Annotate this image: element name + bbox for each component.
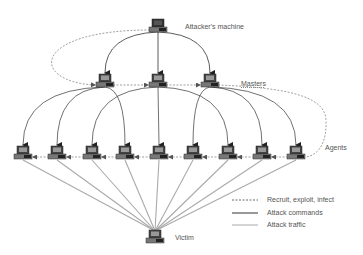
drive-slot — [194, 155, 201, 158]
screen — [154, 76, 162, 81]
attack-command-line — [105, 32, 158, 73]
drive-slot — [93, 155, 100, 158]
attacker-computer-icon — [149, 19, 167, 32]
drive-slot — [156, 239, 163, 242]
attack-command-line — [105, 87, 125, 145]
drive-slot — [160, 155, 167, 158]
screen — [224, 148, 232, 153]
agent-computer-icon — [14, 146, 32, 159]
drive-slot — [297, 155, 304, 158]
screen — [206, 76, 214, 81]
drive-slot — [58, 155, 65, 158]
screen — [258, 148, 266, 153]
agent-computer-icon — [219, 146, 237, 159]
legend-traffic-label: Attack traffic — [267, 221, 305, 228]
ddos-diagram — [0, 0, 363, 255]
screen — [292, 148, 300, 153]
attack-command-line — [210, 87, 262, 145]
master-computer-icon — [201, 74, 219, 87]
screen — [121, 148, 129, 153]
attack-traffic-line — [155, 160, 262, 231]
attack-traffic-line — [155, 160, 159, 231]
victim-label: Victim — [175, 234, 194, 241]
screen — [151, 232, 159, 237]
agent-computer-icon — [287, 146, 305, 159]
attack-command-line — [158, 32, 210, 73]
drive-slot — [159, 83, 166, 86]
legend-recruit-label: Recruit, exploit, infect — [267, 196, 334, 203]
drive-slot — [159, 28, 166, 31]
attack-traffic-line — [155, 160, 193, 231]
attack-command-line — [210, 87, 296, 145]
screen — [19, 148, 27, 153]
agent-computer-icon — [48, 146, 66, 159]
attack-command-line — [193, 87, 210, 145]
master-computer-icon — [96, 74, 114, 87]
agent-computer-icon — [116, 146, 134, 159]
attack-command-lines — [23, 32, 296, 145]
attack-traffic-lines — [23, 160, 296, 231]
screen — [88, 148, 96, 153]
agent-computer-icon — [184, 146, 202, 159]
drive-slot — [106, 83, 113, 86]
master-computer-icon — [149, 74, 167, 87]
attack-traffic-line — [92, 160, 155, 231]
masters-label: Masters — [241, 80, 266, 87]
recruit-lines — [33, 30, 326, 157]
agent-computer-icon — [150, 146, 168, 159]
attacker-label: Attacker's machine — [185, 23, 244, 30]
drive-slot — [263, 155, 270, 158]
attack-traffic-line — [23, 160, 155, 231]
agents-label: Agents — [325, 144, 347, 151]
drive-slot — [229, 155, 236, 158]
attack-traffic-line — [155, 160, 228, 231]
screen — [53, 148, 61, 153]
screen — [189, 148, 197, 153]
agent-computer-icon — [83, 146, 101, 159]
screen — [101, 76, 109, 81]
drive-slot — [24, 155, 31, 158]
screen — [154, 21, 162, 26]
victim-computer-icon — [146, 230, 164, 243]
screen — [155, 148, 163, 153]
legend-commands-label: Attack commands — [267, 209, 323, 216]
agent-computer-icon — [253, 146, 271, 159]
drive-slot — [126, 155, 133, 158]
attack-command-line — [158, 87, 159, 145]
drive-slot — [211, 83, 218, 86]
legend — [232, 200, 258, 225]
